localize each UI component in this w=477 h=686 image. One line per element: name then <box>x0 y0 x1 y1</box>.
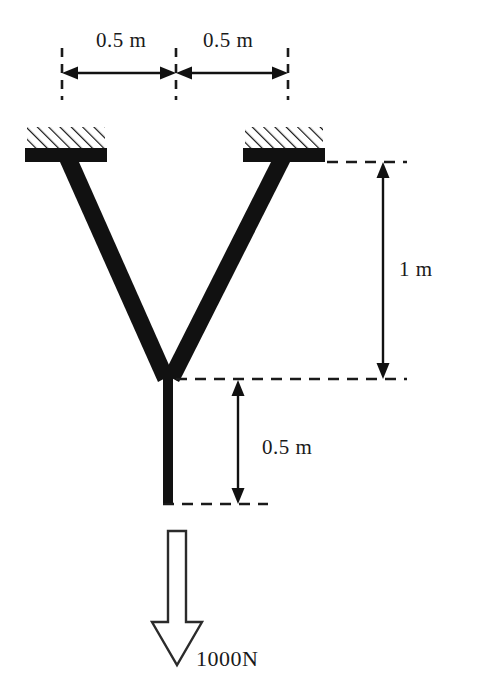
diagram-canvas <box>0 0 477 686</box>
load-arrow <box>152 531 202 665</box>
support-left-bar <box>25 148 107 162</box>
member-vertical-stem <box>163 370 173 505</box>
engineering-diagram: 0.5 m 0.5 m 1 m 0.5 m 1000N <box>0 0 477 686</box>
support-right <box>243 127 325 162</box>
member-left-leg <box>60 162 173 382</box>
support-right-bar <box>243 148 325 162</box>
support-left <box>25 127 107 162</box>
support-right-hatching <box>245 127 323 148</box>
member-right-leg <box>164 162 290 382</box>
dimension-label-height-upper: 1 m <box>399 259 433 280</box>
dimension-arrow-height-upper <box>377 162 390 379</box>
frame-members <box>60 162 290 505</box>
dimension-label-height-lower: 0.5 m <box>262 437 312 458</box>
dimension-arrow-span-right <box>176 67 288 80</box>
dimension-label-span-left: 0.5 m <box>96 30 146 51</box>
support-left-hatching <box>27 127 105 148</box>
dimension-arrow-height-lower <box>232 380 245 504</box>
dimension-arrow-span-left <box>62 67 176 80</box>
dimension-label-span-right: 0.5 m <box>203 30 253 51</box>
load-label: 1000N <box>196 648 258 670</box>
